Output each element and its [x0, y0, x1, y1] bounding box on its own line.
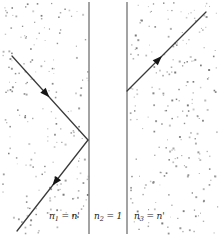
- figure-background: [0, 0, 219, 236]
- index-subscript: 2: [99, 215, 104, 223]
- diagram-canvas: n1=n'n2=1n3=n': [0, 0, 219, 236]
- optics-ray-diagram: n1=n'n2=1n3=n': [0, 0, 219, 236]
- index-value: n': [156, 211, 164, 221]
- index-operator: =: [61, 211, 69, 221]
- index-subscript: 3: [140, 215, 144, 223]
- index-value: 1: [116, 211, 122, 221]
- index-operator: =: [106, 211, 114, 221]
- index-value: n': [71, 211, 79, 221]
- index-subscript: 1: [55, 215, 59, 223]
- index-operator: =: [146, 211, 154, 221]
